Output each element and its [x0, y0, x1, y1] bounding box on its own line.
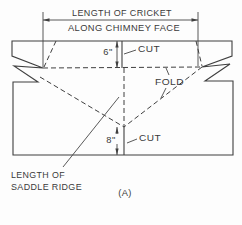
title-length-of-cricket: LENGTH OF CRICKET: [72, 8, 172, 18]
label-saddle-ridge-line2: SADDLE RIDGE: [11, 182, 82, 192]
fold-line-left-flap: [44, 41, 56, 67]
label-saddle-ridge-line1: LENGTH OF: [11, 170, 65, 180]
arrowhead-6in-up: [115, 41, 118, 48]
cricket-pattern-diagram: LENGTH OF CRICKET ALONG CHIMNEY FACE 6" …: [0, 0, 242, 225]
fold-line-left-diagonal: [40, 77, 124, 127]
arrowhead-8in-up: [115, 127, 118, 134]
label-dim-6in: 6": [103, 47, 112, 57]
label-cut-top: CUT: [138, 44, 160, 54]
leader-fold-upper: [166, 68, 169, 75]
leader-cut-top: [124, 50, 136, 54]
arrowhead-top-left: [43, 18, 50, 21]
fold-line-right-flap: [196, 41, 202, 66]
title-along-chimney-face: ALONG CHIMNEY FACE: [68, 23, 180, 33]
label-dim-8in: 8": [106, 135, 115, 145]
arrowhead-8in-down: [115, 149, 118, 156]
label-figure-a: (A): [118, 188, 132, 198]
label-cut-bottom: CUT: [139, 133, 161, 143]
label-fold: FOLD: [155, 77, 184, 87]
arrowhead-top-right: [192, 18, 199, 21]
fold-line-right-diagonal: [124, 67, 202, 127]
leader-cut-bottom: [127, 139, 137, 143]
